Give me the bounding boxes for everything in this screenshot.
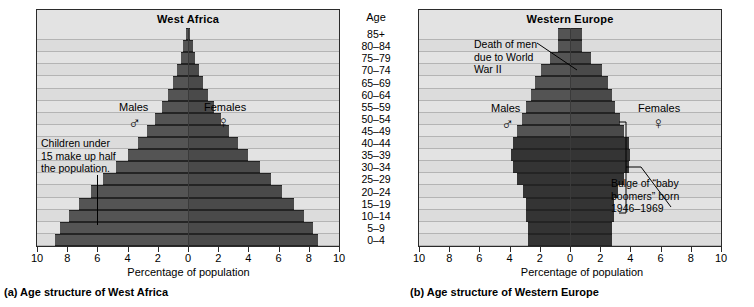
age-column-title: Age xyxy=(345,11,407,23)
age-group-label: 25–29 xyxy=(345,173,407,185)
x-axis-tick-label: 4 xyxy=(507,252,513,264)
bar-female xyxy=(188,52,195,64)
chart-frame-west-africa: West Africa Males ♂ Females ♀ Children u… xyxy=(36,9,340,247)
x-axis-tick-label: 8 xyxy=(64,252,70,264)
bar-male xyxy=(155,113,188,125)
annotation-children-under-15: Children under 15 make up half the popul… xyxy=(41,137,151,175)
age-group-label: 10–14 xyxy=(345,210,407,222)
age-group-label: 30–34 xyxy=(345,161,407,173)
bar-male xyxy=(147,125,188,137)
annotation-leader-line xyxy=(97,175,98,225)
x-axis-tick-label: 8 xyxy=(688,252,694,264)
x-axis-tick-label: 0 xyxy=(567,252,573,264)
x-axis-tick-label: 2 xyxy=(215,252,221,264)
bar-male xyxy=(103,173,188,185)
x-axis-tick-label: 0 xyxy=(185,252,191,264)
chart-frame-western-europe: Western Europe Death of men due to World… xyxy=(418,9,722,247)
x-axis-tick-label: 4 xyxy=(245,252,251,264)
x-axis-tick-label: 4 xyxy=(125,252,131,264)
bar-male xyxy=(168,89,188,101)
x-axis-tick-label: 8 xyxy=(306,252,312,264)
age-group-label: 15–19 xyxy=(345,198,407,210)
bar-male xyxy=(55,234,188,246)
legend-males-label: Males xyxy=(119,101,148,113)
x-axis-west-africa: 1086420246810 xyxy=(36,247,340,265)
panel-western-europe: Western Europe Death of men due to World… xyxy=(410,0,754,307)
annotation-baby-boomers: Bulge of “baby boomers” born 1946–1969 xyxy=(611,177,723,215)
bar-female xyxy=(188,198,294,210)
bar-male xyxy=(79,198,188,210)
x-axis-tick-label: 6 xyxy=(658,252,664,264)
bar-female xyxy=(188,234,318,246)
x-axis-tick-label: 10 xyxy=(31,252,43,264)
age-group-column: Age 85+80–8475–7970–7465–6960–6455–5950–… xyxy=(345,0,407,307)
x-axis-tick-label: 6 xyxy=(94,252,100,264)
bar-male xyxy=(177,64,188,76)
bar-female xyxy=(188,89,208,101)
caption-western-europe: (b) Age structure of Western Europe xyxy=(410,286,599,298)
x-axis-tick-label: 6 xyxy=(476,252,482,264)
bar-female xyxy=(188,185,282,197)
bar-male xyxy=(69,210,188,222)
x-axis-tick-label: 2 xyxy=(537,252,543,264)
age-group-label: 35–39 xyxy=(345,149,407,161)
bar-male xyxy=(91,185,188,197)
bar-male xyxy=(162,101,188,113)
bar-male xyxy=(60,222,188,234)
age-group-label: 50–54 xyxy=(345,113,407,125)
x-axis-tick-label: 2 xyxy=(155,252,161,264)
x-axis-tick-label: 6 xyxy=(276,252,282,264)
age-group-label: 55–59 xyxy=(345,101,407,113)
bar-female xyxy=(188,161,260,173)
bar-female xyxy=(188,137,238,149)
age-group-label: 80–84 xyxy=(345,40,407,52)
age-group-label: 40–44 xyxy=(345,137,407,149)
male-symbol-icon: ♂ xyxy=(128,115,141,132)
bar-female xyxy=(188,76,203,88)
x-axis-tick-label: 10 xyxy=(413,252,425,264)
female-symbol-icon: ♀ xyxy=(217,114,230,131)
age-group-label: 0–4 xyxy=(345,234,407,246)
panel-west-africa: West Africa Males ♂ Females ♀ Children u… xyxy=(0,0,377,307)
x-axis-title-western-europe: Percentage of population xyxy=(410,266,754,278)
legend-females-label: Females xyxy=(204,101,246,113)
age-group-label: 5–9 xyxy=(345,222,407,234)
age-group-label: 70–74 xyxy=(345,64,407,76)
x-axis-tick-label: 4 xyxy=(627,252,633,264)
caption-west-africa: (a) Age structure of West Africa xyxy=(4,286,168,298)
age-group-label: 85+ xyxy=(345,28,407,40)
bar-female xyxy=(188,210,304,222)
bar-male xyxy=(181,52,188,64)
age-group-label: 20–24 xyxy=(345,186,407,198)
chart-title-west-africa: West Africa xyxy=(37,13,339,25)
bar-female xyxy=(188,222,313,234)
x-axis-title-west-africa: Percentage of population xyxy=(0,266,377,278)
x-axis-western-europe: 1086420246810 xyxy=(418,247,722,265)
age-group-label: 45–49 xyxy=(345,125,407,137)
bar-female xyxy=(188,173,271,185)
age-group-label: 60–64 xyxy=(345,89,407,101)
center-axis-line xyxy=(188,28,189,246)
bar-female xyxy=(188,149,248,161)
age-group-label: 65–69 xyxy=(345,77,407,89)
age-group-label: 75–79 xyxy=(345,52,407,64)
bar-female xyxy=(188,64,199,76)
x-axis-tick-label: 2 xyxy=(597,252,603,264)
x-axis-tick-label: 10 xyxy=(333,252,345,264)
x-axis-tick-label: 10 xyxy=(715,252,727,264)
bar-male xyxy=(173,76,188,88)
x-axis-tick-label: 8 xyxy=(446,252,452,264)
